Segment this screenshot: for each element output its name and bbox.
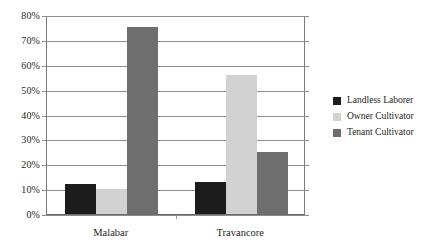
- y-axis: 0%10%20%30%40%50%60%70%80%: [0, 0, 44, 252]
- y-tick-label: 20%: [21, 160, 40, 170]
- legend-swatch-icon: [333, 113, 341, 121]
- x-tick-label: Malabar: [93, 228, 128, 239]
- axis-center-tick: [176, 215, 177, 219]
- x-tick-label: Travancore: [217, 228, 264, 239]
- axis-tick-mark: [304, 16, 309, 17]
- y-tick-label: 60%: [21, 61, 40, 71]
- x-axis-category-labels: MalabarTravancore: [46, 228, 305, 248]
- bar: [96, 189, 127, 214]
- legend-label: Landless Laborer: [347, 96, 413, 106]
- legend-item: Tenant Cultivator: [333, 125, 433, 141]
- axis-tick-mark: [304, 41, 309, 42]
- y-tick-label: 70%: [21, 36, 40, 46]
- axis-tick-mark: [304, 215, 309, 216]
- bar: [127, 27, 158, 214]
- y-tick-label: 0%: [26, 210, 40, 220]
- legend-item: Landless Laborer: [333, 93, 433, 109]
- y-tick-label: 10%: [21, 185, 40, 195]
- bar: [195, 182, 226, 214]
- bar-group-malabar: [65, 17, 159, 214]
- bar: [257, 152, 288, 214]
- axis-tick-mark: [42, 215, 47, 216]
- legend-swatch-icon: [333, 97, 341, 105]
- y-tick-label: 30%: [21, 135, 40, 145]
- legend-label: Tenant Cultivator: [347, 128, 414, 138]
- bar: [65, 184, 96, 214]
- bar-chart: 0%10%20%30%40%50%60%70%80% MalabarTravan…: [0, 0, 435, 252]
- bars-layer: [47, 17, 304, 214]
- y-tick-label: 80%: [21, 11, 40, 21]
- legend-label: Owner Cultivator: [347, 112, 414, 122]
- axis-tick-mark: [304, 140, 309, 141]
- legend-item: Owner Cultivator: [333, 109, 433, 125]
- legend-swatch-icon: [333, 129, 341, 137]
- y-tick-label: 50%: [21, 86, 40, 96]
- plot-area: [46, 16, 305, 215]
- bar-group-travancore: [194, 17, 288, 214]
- axis-tick-mark: [304, 116, 309, 117]
- axis-tick-mark: [304, 190, 309, 191]
- bar: [226, 75, 257, 214]
- axis-tick-mark: [304, 165, 309, 166]
- legend: Landless LaborerOwner CultivatorTenant C…: [333, 93, 433, 141]
- y-tick-label: 40%: [21, 111, 40, 121]
- axis-tick-mark: [304, 91, 309, 92]
- axis-tick-mark: [304, 66, 309, 67]
